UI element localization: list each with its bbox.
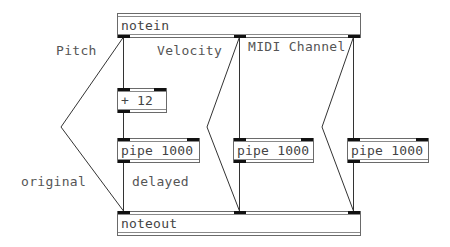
pipe-channel-object[interactable]: pipe 1000	[347, 138, 429, 163]
comment-original: original	[21, 174, 86, 189]
comment-midi-channel: MIDI Channel	[248, 39, 346, 54]
plus12-object[interactable]: + 12	[117, 88, 167, 113]
noteout-inlet-channel[interactable]	[348, 211, 360, 214]
pd-patch-canvas: notein + 12 pipe 1000 pipe 1000 pipe 100…	[0, 0, 450, 247]
plus12-inlet-left[interactable]	[118, 88, 130, 91]
pipe-pitch-text: pipe 1000	[121, 143, 193, 159]
pipe-pitch-inlet-right[interactable]	[187, 138, 199, 141]
pipe-pitch-object[interactable]: pipe 1000	[117, 138, 200, 163]
pipe-pitch-inlet-left[interactable]	[118, 138, 130, 141]
plus12-outlet[interactable]	[118, 110, 130, 113]
notein-text: notein	[121, 18, 169, 34]
plus12-text: + 12	[121, 93, 153, 109]
pipe-channel-text: pipe 1000	[351, 143, 423, 159]
pipe-velocity-inlet-left[interactable]	[234, 138, 246, 141]
notein-outlet-pitch[interactable]	[118, 35, 130, 38]
noteout-inlet-velocity[interactable]	[234, 211, 246, 214]
pipe-channel-inlet-left[interactable]	[348, 138, 360, 141]
noteout-inlet-pitch[interactable]	[118, 211, 130, 214]
notein-outlet-channel[interactable]	[348, 35, 360, 38]
comment-delayed: delayed	[132, 174, 189, 189]
noteout-object[interactable]: noteout	[117, 211, 361, 236]
pipe-channel-inlet-right[interactable]	[416, 138, 428, 141]
comment-velocity: Velocity	[157, 43, 222, 58]
pipe-velocity-outlet[interactable]	[234, 160, 246, 163]
comment-pitch: Pitch	[56, 43, 97, 58]
pipe-velocity-object[interactable]: pipe 1000	[233, 138, 314, 163]
pipe-velocity-text: pipe 1000	[237, 143, 309, 159]
plus12-inlet-right[interactable]	[154, 88, 166, 91]
wire-channel-original[interactable]	[322, 37, 354, 211]
notein-outlet-velocity[interactable]	[234, 35, 246, 38]
noteout-text: noteout	[121, 216, 177, 232]
pipe-channel-outlet[interactable]	[348, 160, 360, 163]
wire-velocity-original[interactable]	[207, 37, 240, 211]
pipe-pitch-outlet[interactable]	[118, 160, 130, 163]
pipe-velocity-inlet-right[interactable]	[301, 138, 313, 141]
notein-object[interactable]: notein	[117, 13, 361, 38]
